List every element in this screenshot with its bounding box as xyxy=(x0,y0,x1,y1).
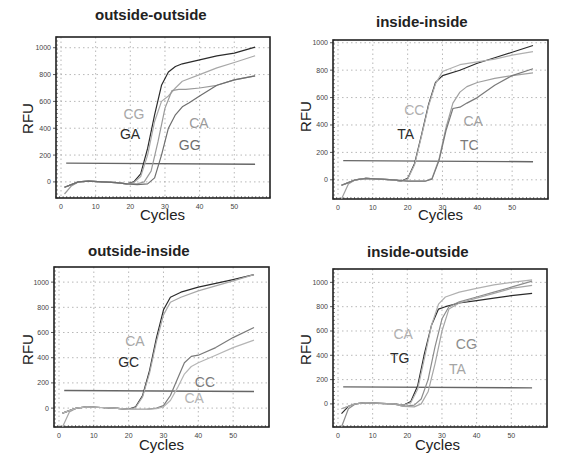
series-TA xyxy=(342,285,533,408)
x-tick-label: 20 xyxy=(403,432,411,439)
series-CA xyxy=(342,280,533,409)
x-tick-label: 50 xyxy=(507,432,515,439)
series-label: CA xyxy=(393,326,413,342)
series-label: TG xyxy=(390,350,409,366)
series-label: TA xyxy=(449,361,467,377)
x-tick-label: 10 xyxy=(369,432,377,439)
y-tick-label: 600 xyxy=(316,327,328,334)
series-label: CG xyxy=(456,336,477,352)
y-tick-label: 200 xyxy=(316,376,328,383)
threshold-line xyxy=(343,387,532,388)
y-tick-label: 400 xyxy=(316,352,328,359)
x-tick-label: 0 xyxy=(336,432,340,439)
y-tick-label: 0 xyxy=(324,400,328,407)
y-tick-label: 800 xyxy=(316,303,328,310)
plot-inside-outside: 0200400600800100001020304050CATGCGTA xyxy=(0,0,561,467)
x-tick-label: 30 xyxy=(438,432,446,439)
x-tick-label: 40 xyxy=(473,432,481,439)
y-tick-label: 1000 xyxy=(312,279,328,286)
